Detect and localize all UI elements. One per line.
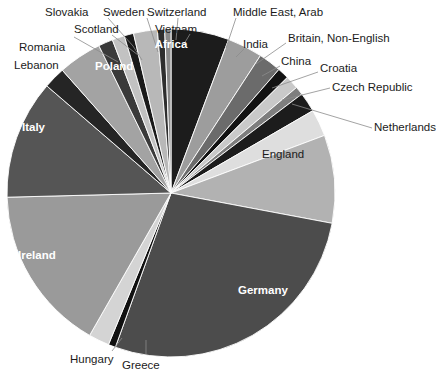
label-hungary: Hungary: [70, 353, 114, 365]
label-netherlands: Netherlands: [374, 121, 436, 133]
label-ireland: Ireland: [18, 249, 56, 261]
label-romania: Romania: [19, 41, 66, 53]
label-africa: Africa: [155, 38, 188, 50]
label-britain-non-english: Britain, Non-English: [288, 32, 390, 44]
label-germany: Germany: [238, 284, 288, 296]
label-vietnam: Vietnam: [155, 23, 197, 35]
label-middle-east-arab: Middle East, Arab: [233, 6, 323, 18]
label-italy: Italy: [22, 121, 46, 133]
label-china: China: [281, 55, 312, 67]
label-slovakia: Slovakia: [45, 6, 89, 18]
label-czech-republic: Czech Republic: [332, 81, 413, 93]
label-scotland: Scotland: [74, 23, 119, 35]
label-england: England: [262, 148, 304, 160]
pie-chart-svg: Slovakia Sweden Switzerland Vietnam Scot…: [0, 0, 436, 376]
label-india: India: [243, 38, 269, 50]
label-switzerland: Switzerland: [147, 6, 206, 18]
label-lebanon: Lebanon: [14, 59, 59, 71]
label-greece: Greece: [122, 359, 160, 371]
pie-slices-group: [7, 29, 335, 357]
pie-chart-figure: Slovakia Sweden Switzerland Vietnam Scot…: [0, 0, 436, 376]
label-poland: Poland: [95, 60, 133, 72]
label-sweden: Sweden: [103, 6, 145, 18]
label-croatia: Croatia: [320, 62, 358, 74]
